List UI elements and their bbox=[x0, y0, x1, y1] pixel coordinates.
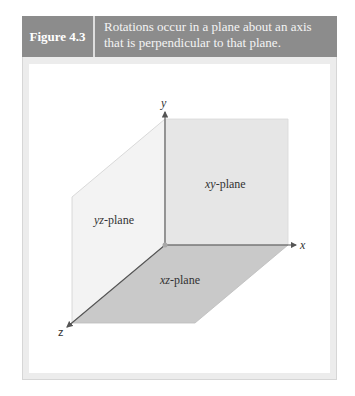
xy-plane-label-suffix: -plane bbox=[216, 177, 246, 191]
xy-plane-label: xy-plane bbox=[205, 177, 246, 192]
z-axis-label: z bbox=[58, 326, 64, 338]
xz-plane-label-suffix: -plane bbox=[170, 273, 200, 287]
yz-plane-label-italic: yz bbox=[94, 213, 104, 227]
y-axis-label: y bbox=[161, 96, 166, 111]
yz-plane-label: yz-plane bbox=[94, 213, 134, 228]
xy-plane-label-italic: xy bbox=[205, 177, 216, 191]
xz-plane-label-italic: xz bbox=[160, 273, 170, 287]
xz-plane-label: xz-plane bbox=[160, 273, 200, 288]
origin-dot bbox=[163, 243, 168, 248]
yz-plane-label-suffix: -plane bbox=[104, 213, 134, 227]
x-axis-label: x bbox=[300, 238, 305, 253]
coordinate-planes-diagram bbox=[0, 0, 355, 396]
